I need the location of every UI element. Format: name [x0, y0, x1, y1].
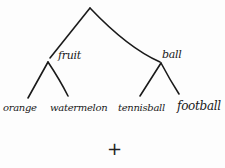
edge-fruit-orange — [28, 62, 48, 98]
edge-ball-football — [161, 63, 179, 94]
leaf-label-football: football — [177, 100, 221, 112]
leaf-label-orange: orange — [3, 103, 37, 113]
plus-symbol: + — [107, 140, 122, 158]
edge-fruit-watermelon — [48, 62, 68, 96]
leaf-label-tennisball: tennisball — [118, 103, 165, 113]
node-label-ball: ball — [162, 49, 181, 60]
edge-root-ball — [90, 8, 160, 62]
edge-ball-tennisball — [140, 63, 161, 96]
leaf-label-watermelon: watermelon — [50, 103, 107, 113]
node-label-fruit: fruit — [58, 50, 81, 61]
tree-diagram-canvas: fruit ball orange watermelon tennisball … — [0, 0, 225, 168]
